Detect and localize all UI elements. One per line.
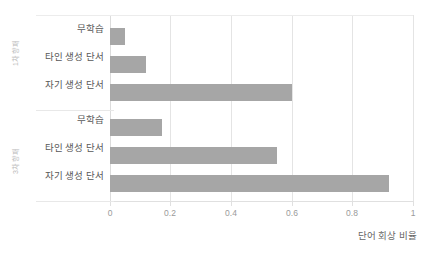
gridline-0.6 [292,15,293,201]
category-label-g1-self-cue: 자기 생성 단서 [0,79,104,90]
category-label-g2-other-cue: 타인 생성 단서 [0,142,104,153]
tickmark-0.2 [170,202,171,206]
bar-g2-self-cue [110,175,389,192]
plot-frame-top [110,15,413,16]
tickmark-0.8 [352,202,353,206]
plot-frame-bottom [110,201,414,202]
bar-g2-no-learning [110,119,162,136]
ticklabel-0.2: 0.2 [155,208,185,218]
tickmark-1 [413,202,414,206]
x-axis-title: 단어 회상 비율 [358,228,417,242]
ticklabel-1: 1 [398,208,428,218]
ticklabel-0.6: 0.6 [277,208,307,218]
ticklabel-0.8: 0.8 [337,208,367,218]
ticklabel-0.4: 0.4 [216,208,246,218]
category-label-g2-self-cue: 자기 생성 단서 [0,170,104,181]
bar-g1-no-learning [110,28,125,45]
tickmark-0.4 [231,202,232,206]
gridline-0.2 [170,15,171,201]
bar-g2-other-cue [110,147,277,164]
category-label-g1-other-cue: 타인 생성 단서 [0,51,104,62]
bar-g1-self-cue [110,84,292,101]
plot-area [110,15,413,201]
tickmark-0 [110,202,111,206]
category-label-g1-no-learning: 무학습 [0,23,104,34]
tickmark-0.6 [292,202,293,206]
category-label-g2-no-learning: 무학습 [0,114,104,125]
bar-g1-other-cue [110,56,146,73]
gridline-0.8 [352,15,353,201]
bar-chart: 1차 향패 3차 향패 무학습 타인 생성 단서 자기 생성 단서 무학습 타인… [0,0,429,254]
gridline-0.4 [231,15,232,201]
ticklabel-0: 0 [95,208,125,218]
gridline-1 [413,15,414,201]
category-label-column: 무학습 타인 생성 단서 자기 생성 단서 무학습 타인 생성 단서 자기 생성… [0,0,104,254]
